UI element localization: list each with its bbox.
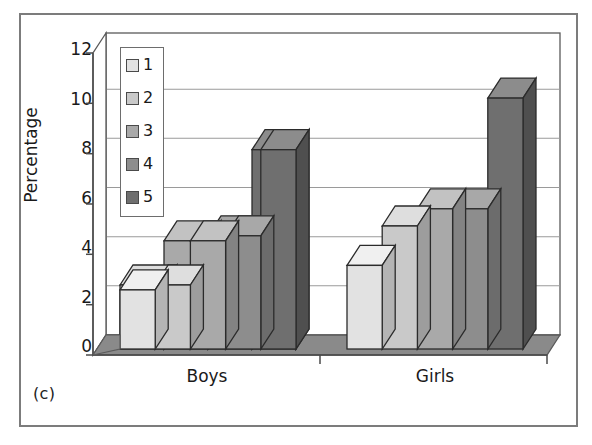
- bar-girls-series-1: [347, 245, 395, 349]
- legend-swatch-1-icon: [126, 59, 139, 72]
- chart-plot-area: Percentage 12 10 8 6 4 2 0: [0, 0, 592, 445]
- legend-item-5[interactable]: 5: [126, 189, 153, 205]
- legend-swatch-4-icon: [126, 158, 139, 171]
- legend-item-3[interactable]: 3: [126, 123, 153, 139]
- legend-label-2: 2: [143, 90, 153, 106]
- legend-item-1[interactable]: 1: [126, 57, 153, 73]
- legend-label-3: 3: [143, 123, 153, 139]
- x-tick-label-boys: Boys: [137, 366, 277, 386]
- legend-item-4[interactable]: 4: [126, 156, 153, 172]
- legend-swatch-5-icon: [126, 191, 139, 204]
- y-axis-ticks: [86, 53, 93, 355]
- x-axis-line: [93, 355, 547, 364]
- legend-item-2[interactable]: 2: [126, 90, 153, 106]
- legend-label-4: 4: [143, 156, 153, 172]
- chart-legend: 1 2 3 4 5: [120, 47, 164, 217]
- legend-label-1: 1: [143, 57, 153, 73]
- bar-boys-series-1: [120, 270, 168, 349]
- x-tick-label-girls: Girls: [365, 366, 505, 386]
- legend-swatch-2-icon: [126, 92, 139, 105]
- legend-swatch-3-icon: [126, 125, 139, 138]
- left-wall: [93, 33, 106, 355]
- legend-label-5: 5: [143, 189, 153, 205]
- figure-caption: (c): [33, 384, 55, 403]
- figure-panel: Percentage 12 10 8 6 4 2 0: [0, 0, 592, 445]
